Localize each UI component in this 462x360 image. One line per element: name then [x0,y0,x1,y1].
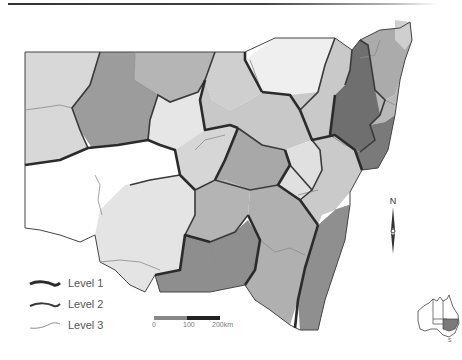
map-legend: Level 1 Level 2 Level 3 [28,272,103,335]
legend-label: Level 1 [68,277,103,289]
north-arrow-icon [386,206,400,256]
legend-label: Level 3 [68,319,103,331]
legend-item-level-3: Level 3 [28,314,103,335]
legend-item-level-1: Level 1 [28,272,103,293]
north-label: N [386,196,400,206]
scale-label-100: 100 [183,321,195,328]
legend-label: Level 2 [68,298,103,310]
level-2-line-icon [28,299,62,309]
legend-item-level-2: Level 2 [28,293,103,314]
north-arrow: N [386,196,400,260]
level-3-line-icon [28,320,62,330]
scale-bar: 0 100 200km [154,316,244,330]
inset-label: S [448,337,452,343]
scale-label-200: 200km [212,321,233,328]
scale-label-0: 0 [152,321,156,328]
australia-inset-map: S [415,293,461,347]
australia-outline-icon: S [415,293,461,343]
level-1-line-icon [28,278,62,288]
